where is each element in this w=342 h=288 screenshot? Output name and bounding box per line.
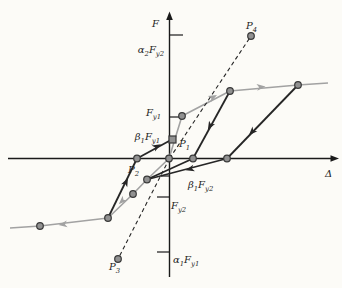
label-p4: P4 <box>245 20 257 34</box>
point-origin <box>166 155 173 162</box>
y-axis-arrowhead <box>166 12 173 21</box>
node-axis-crossing-1 <box>190 155 197 162</box>
x-axis-label: Δ <box>324 168 332 179</box>
unload-path-2 <box>227 85 298 159</box>
hysteresis-diagram: F Δ α2Fy2 Fy1 β1Fy1 β1Fy2 Fy2 α1Fy1 P1 P… <box>0 0 342 288</box>
label-beta1-fy2: β1Fy2 <box>187 179 213 193</box>
node-peak-2 <box>295 82 302 89</box>
backbone-arrow-right <box>256 83 265 91</box>
reload-arrow-up <box>121 176 131 187</box>
plot-canvas: F Δ α2Fy2 Fy1 β1Fy1 β1Fy2 Fy2 α1Fy1 P1 P… <box>0 0 342 288</box>
label-alpha2-fy2: α2Fy2 <box>138 44 164 58</box>
x-axis-arrowhead <box>331 155 340 162</box>
node-backbone-neg-mid <box>130 191 137 198</box>
label-fy2: Fy2 <box>170 200 186 214</box>
node-axis-crossing-2 <box>224 155 231 162</box>
point-p2 <box>134 155 141 162</box>
node-pinch-point <box>144 176 151 183</box>
label-fy1: Fy1 <box>145 107 161 121</box>
node-yield-fy1 <box>179 113 186 120</box>
label-beta1-fy1: β1Fy1 <box>134 131 160 145</box>
label-p1: P1 <box>178 138 190 152</box>
point-p1 <box>169 136 176 143</box>
node-peak-1 <box>227 88 234 95</box>
point-p4 <box>248 33 255 40</box>
node-backbone-left <box>37 223 44 230</box>
node-backbone-bend-neg <box>105 215 112 222</box>
figure-layer <box>8 12 339 278</box>
label-alpha1-fy1: α1Fy1 <box>173 254 199 268</box>
label-p3: P3 <box>108 261 120 275</box>
backbone-arrow-left <box>58 221 67 229</box>
y-axis-label: F <box>151 18 160 29</box>
